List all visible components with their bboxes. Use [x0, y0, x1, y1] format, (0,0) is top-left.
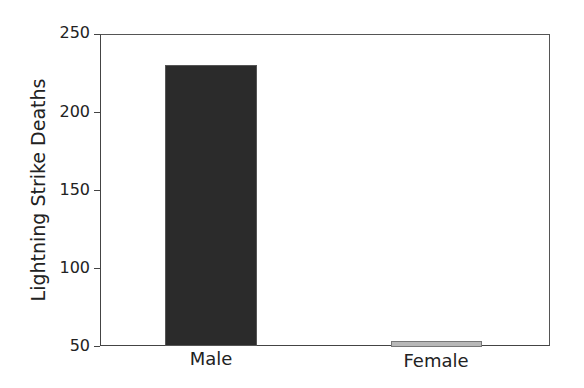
x-tick-label-female: Female — [376, 350, 496, 371]
y-tick-50 — [94, 346, 100, 347]
bar-male — [165, 65, 257, 346]
y-tick-150 — [94, 190, 100, 191]
y-tick-200 — [94, 112, 100, 113]
y-tick-label-150: 150 — [30, 182, 90, 198]
y-tick-label-200: 200 — [30, 104, 90, 120]
y-tick-label-50: 50 — [30, 338, 90, 354]
y-tick-100 — [94, 268, 100, 269]
bar-female — [391, 341, 482, 347]
y-tick-label-250: 250 — [30, 25, 90, 41]
y-tick-250 — [94, 34, 100, 35]
x-tick-label-male: Male — [151, 348, 271, 369]
y-tick-label-100: 100 — [30, 260, 90, 276]
